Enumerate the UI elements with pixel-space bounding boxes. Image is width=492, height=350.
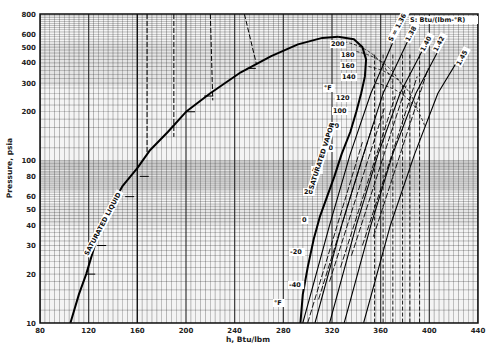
x-tick-label: 440 xyxy=(471,327,486,335)
x-tick-label: 280 xyxy=(276,327,291,335)
y-tick-label: 600 xyxy=(21,31,36,39)
y-tick-label: 100 xyxy=(21,157,36,165)
curve-label: 200 xyxy=(331,40,345,48)
y-tick-label: 60 xyxy=(26,193,36,201)
x-tick-label: 200 xyxy=(179,327,194,335)
y-tick-label: 500 xyxy=(21,44,36,52)
curve-label: °F xyxy=(274,299,282,307)
y-tick-label: 10 xyxy=(26,320,36,328)
y-tick-label: 50 xyxy=(26,206,36,214)
x-tick-label: 400 xyxy=(422,327,437,335)
y-tick-label: 400 xyxy=(21,59,36,67)
y-tick-label: 40 xyxy=(26,222,36,230)
curve-label: 160 xyxy=(341,62,355,70)
x-tick-label: 160 xyxy=(130,327,145,335)
curve-label: 120 xyxy=(336,94,350,102)
x-tick-label: 320 xyxy=(325,327,340,335)
y-tick-label: 20 xyxy=(26,271,36,279)
x-axis-ticks: 80120160200240280320360400440 xyxy=(35,327,485,335)
curve-label: S: Btu/(lbm-°R) xyxy=(410,16,465,24)
y-tick-label: 300 xyxy=(21,80,36,88)
y-axis-label: Pressure, psia xyxy=(5,138,14,198)
x-tick-label: 120 xyxy=(81,327,96,335)
y-tick-label: 30 xyxy=(26,242,36,250)
curve-label: -40 xyxy=(289,281,301,289)
y-axis-ticks: 10203040506080100200300400500600800 xyxy=(21,11,36,328)
curve-label: 180 xyxy=(341,51,355,59)
y-tick-label: 200 xyxy=(21,108,36,116)
curve-label: 0 xyxy=(302,216,307,224)
x-tick-label: 240 xyxy=(227,327,242,335)
curve-label: 140 xyxy=(342,73,356,81)
x-axis-label: h, Btu/lbm xyxy=(226,335,270,344)
y-tick-label: 800 xyxy=(21,11,36,19)
x-tick-label: 80 xyxy=(35,327,45,335)
ph-diagram-chart: 80120160200240280320360400440 1020304050… xyxy=(0,0,492,350)
x-tick-label: 360 xyxy=(373,327,388,335)
y-tick-label: 80 xyxy=(26,173,36,181)
curve-label: °F xyxy=(324,84,332,92)
curve-label: -20 xyxy=(290,248,302,256)
curve-label: 100 xyxy=(333,107,347,115)
